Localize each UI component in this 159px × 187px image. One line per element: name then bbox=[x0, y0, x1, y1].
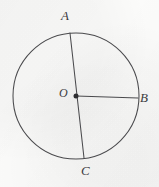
center-label-o: O bbox=[59, 87, 68, 99]
radius-segment-OB bbox=[76, 96, 138, 98]
circle-diagram-canvas bbox=[0, 0, 159, 187]
geometry-figure: A B C O bbox=[0, 0, 159, 187]
point-label-b: B bbox=[140, 91, 148, 104]
center-point-dot bbox=[74, 94, 79, 99]
point-label-a: A bbox=[61, 9, 69, 22]
point-label-c: C bbox=[81, 164, 90, 177]
